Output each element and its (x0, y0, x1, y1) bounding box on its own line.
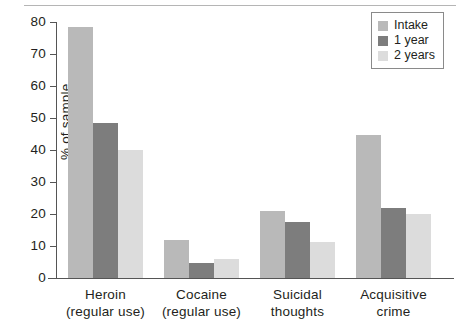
bar (214, 259, 239, 278)
legend-label: 1 year (394, 34, 429, 47)
category-label: Acquisitivecrime (332, 286, 455, 320)
y-tick-80: 80 (50, 22, 56, 23)
legend-item: 1 year (378, 33, 435, 48)
bar (260, 211, 285, 278)
y-tick-label-80: 80 (31, 15, 46, 29)
category-label-line: Acquisitive (332, 286, 455, 303)
bar (93, 123, 118, 278)
bar (68, 27, 93, 278)
bar (189, 263, 214, 278)
legend-swatch-icon (378, 36, 388, 46)
bar-group (164, 14, 239, 278)
legend-item: 2 years (378, 48, 435, 63)
y-tick-30: 30 (50, 182, 56, 183)
y-tick-label-60: 60 (31, 79, 46, 93)
bar (356, 135, 381, 278)
y-tick-0: 0 (50, 278, 56, 279)
legend-label: Intake (394, 19, 428, 32)
y-tick-label-0: 0 (38, 271, 46, 285)
top-divider-rule (24, 5, 456, 6)
y-axis-line (56, 22, 57, 278)
bar (118, 150, 143, 278)
bar-group (68, 14, 143, 278)
bar (381, 208, 406, 278)
y-tick-label-40: 40 (31, 143, 46, 157)
y-tick-label-50: 50 (31, 111, 46, 125)
y-tick-label-10: 10 (31, 239, 46, 253)
category-label-line: crime (332, 303, 455, 320)
y-tick-40: 40 (50, 150, 56, 151)
bar (310, 242, 335, 278)
y-tick-70: 70 (50, 54, 56, 55)
bar (164, 240, 189, 278)
y-tick-label-70: 70 (31, 47, 46, 61)
bar (406, 214, 431, 278)
legend-swatch-icon (378, 21, 388, 31)
legend-swatch-icon (378, 51, 388, 61)
legend-label: 2 years (394, 49, 435, 62)
legend-item: Intake (378, 18, 435, 33)
y-tick-60: 60 (50, 86, 56, 87)
x-axis-line (48, 278, 454, 279)
y-tick-label-30: 30 (31, 175, 46, 189)
y-tick-label-20: 20 (31, 207, 46, 221)
y-tick-20: 20 (50, 214, 56, 215)
y-tick-50: 50 (50, 118, 56, 119)
bar (285, 222, 310, 278)
chart-legend: Intake1 year2 years (371, 12, 444, 69)
bar-group (260, 14, 335, 278)
y-tick-10: 10 (50, 246, 56, 247)
